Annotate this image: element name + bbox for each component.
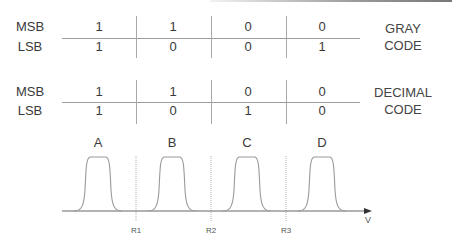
peak-c — [223, 157, 271, 211]
peak-curves — [74, 157, 346, 211]
peak-b — [148, 157, 196, 211]
axis-label-v: V — [365, 215, 371, 225]
peak-a — [74, 157, 122, 211]
threshold-label-r2: R2 — [206, 226, 216, 235]
waveform-plot — [0, 0, 452, 246]
axis-arrow-icon — [364, 208, 372, 214]
threshold-label-r1: R1 — [131, 226, 141, 235]
peak-d — [298, 157, 346, 211]
threshold-label-r3: R3 — [281, 226, 291, 235]
